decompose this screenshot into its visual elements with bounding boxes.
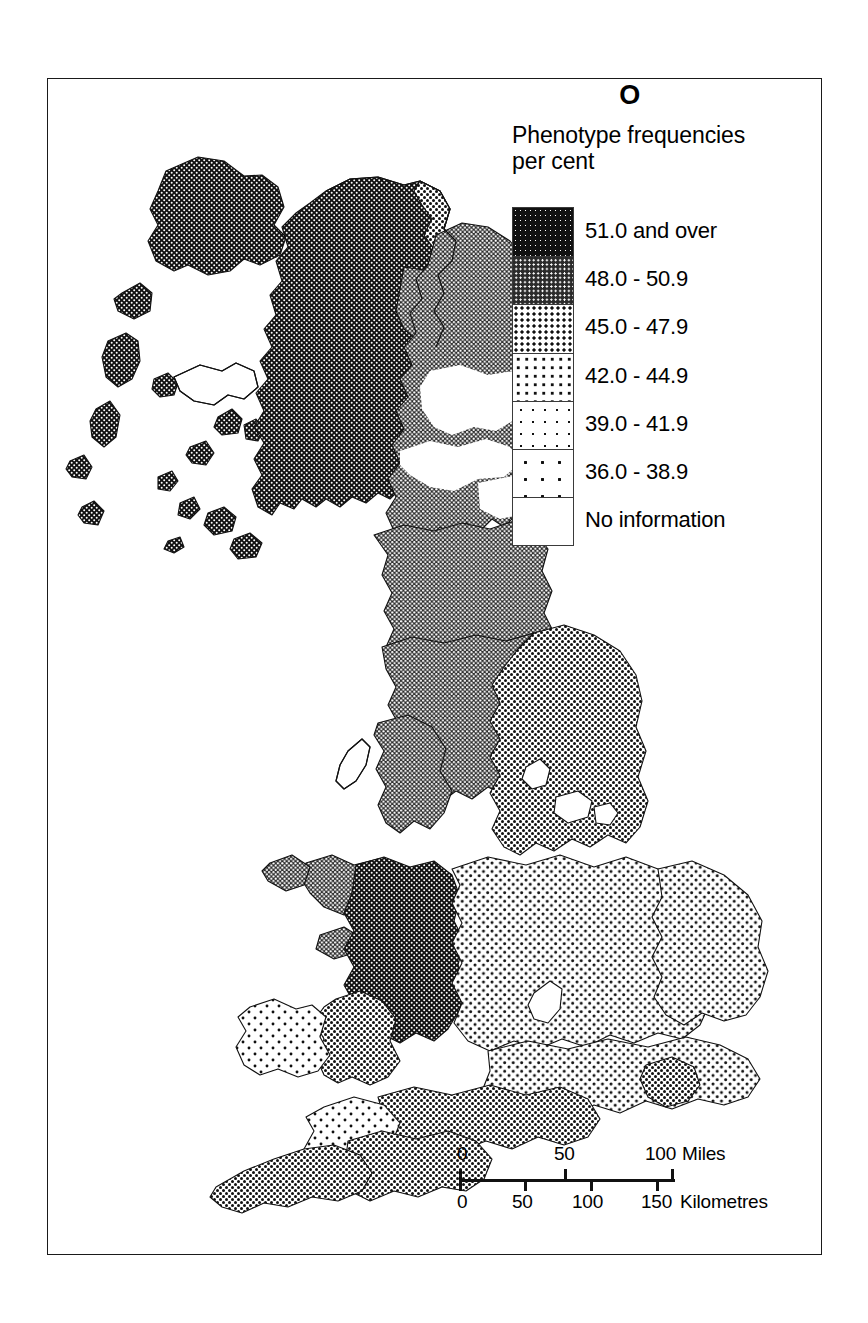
- scale-miles-unit: Miles: [682, 1143, 725, 1165]
- scale-km-tick-150: 150: [641, 1191, 672, 1213]
- legend-swatch-column: [512, 207, 574, 546]
- scale-tick-km-150: [656, 1180, 659, 1191]
- page-title: O: [470, 82, 790, 109]
- scale-km-unit: Kilometres: [680, 1191, 768, 1213]
- scale-tick-miles-100: [671, 1169, 674, 1180]
- scale-tick-km-50: [524, 1180, 527, 1191]
- legend-swatch-36-38: [513, 449, 573, 497]
- legend-label-39-41: 39.0 - 41.9: [585, 400, 815, 448]
- scale-bar: 0 50 100 Miles 0 50 100 150 Kilometres: [457, 1143, 777, 1217]
- legend-swatch-no-information: [513, 497, 573, 545]
- legend-label-45-47: 45.0 - 47.9: [585, 303, 815, 351]
- scale-tick-miles-50: [564, 1169, 567, 1180]
- scale-rule: [459, 1169, 675, 1191]
- scale-miles-tick-0: 0: [457, 1143, 467, 1165]
- legend-swatch-45-47: [513, 304, 573, 352]
- scale-miles-tick-100: 100: [645, 1143, 676, 1165]
- scale-miles-labels: 0 50 100 Miles: [457, 1143, 777, 1169]
- legend-swatch-51-and-over: [513, 208, 573, 256]
- legend-swatch-48-50: [513, 256, 573, 304]
- scale-miles-tick-50: 50: [554, 1143, 575, 1165]
- scale-km-tick-0: 0: [457, 1191, 467, 1213]
- scale-axis-line: [459, 1179, 675, 1182]
- legend-label-51-and-over: 51.0 and over: [585, 207, 815, 255]
- legend-swatch-39-41: [513, 401, 573, 449]
- scale-km-tick-50: 50: [512, 1191, 533, 1213]
- scale-kilometres-labels: 0 50 100 150 Kilometres: [457, 1191, 777, 1217]
- legend-label-36-38: 36.0 - 38.9: [585, 448, 815, 496]
- legend-swatch-42-44: [513, 353, 573, 401]
- legend-heading: Phenotype frequencies per cent: [512, 122, 812, 174]
- scale-tick-miles-0: [459, 1169, 462, 1180]
- legend-labels: 51.0 and over 48.0 - 50.9 45.0 - 47.9 42…: [585, 207, 815, 544]
- scale-tick-km-100: [590, 1180, 593, 1191]
- legend-label-no-information: No information: [585, 496, 815, 544]
- legend-label-48-50: 48.0 - 50.9: [585, 255, 815, 303]
- scale-km-tick-100: 100: [572, 1191, 603, 1213]
- legend-label-42-44: 42.0 - 44.9: [585, 352, 815, 400]
- legend: Phenotype frequencies per cent 51.0 and …: [512, 122, 812, 188]
- scale-tick-km-0: [459, 1180, 462, 1191]
